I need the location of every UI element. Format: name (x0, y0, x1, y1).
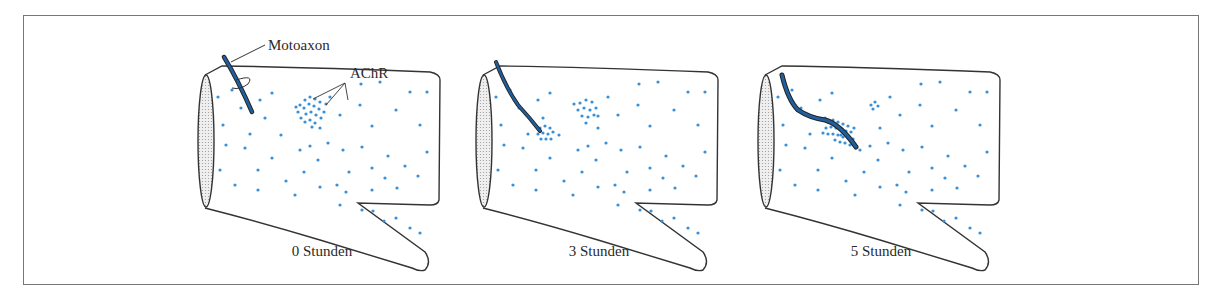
caption-3h: 3 Stunden (569, 243, 630, 259)
panel-0-hours: Motoaxon AChR 0 Stunden (198, 37, 440, 271)
motoaxon-leader-line (231, 45, 265, 62)
motoaxon-label: Motoaxon (268, 37, 330, 53)
panel-5-hours: 5 Stunden (758, 66, 1000, 271)
caption-5h: 5 Stunden (851, 243, 912, 259)
panel-3-hours: 3 Stunden (476, 62, 718, 271)
achr-label: AChR (350, 65, 388, 81)
muscle-fiber (758, 66, 1000, 271)
diagram-canvas: Motoaxon AChR 0 Stunden 3 Stunden (0, 0, 1215, 303)
caption-0h: 0 Stunden (292, 243, 353, 259)
muscle-fiber (198, 66, 440, 271)
